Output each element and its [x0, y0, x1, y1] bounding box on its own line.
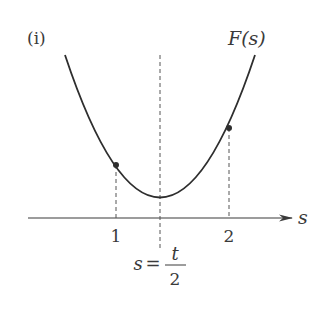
vertex-label-denominator: 2	[170, 269, 181, 289]
vertex-label-lhs: s	[133, 253, 142, 274]
tick-label-2: 2	[224, 226, 235, 246]
vertex-label-eq: =	[145, 253, 160, 274]
point-s2	[226, 125, 232, 131]
diagram-canvas: (i) F(s) s 1 2 s = t 2	[0, 0, 331, 311]
axis-label: s	[298, 206, 308, 228]
panel-label: (i)	[27, 28, 46, 48]
vertex-label-numerator: t	[171, 243, 179, 264]
vertex-label: s = t 2	[133, 243, 186, 289]
function-label: F(s)	[227, 27, 266, 49]
tick-label-1: 1	[111, 226, 122, 246]
point-s1	[113, 162, 119, 168]
